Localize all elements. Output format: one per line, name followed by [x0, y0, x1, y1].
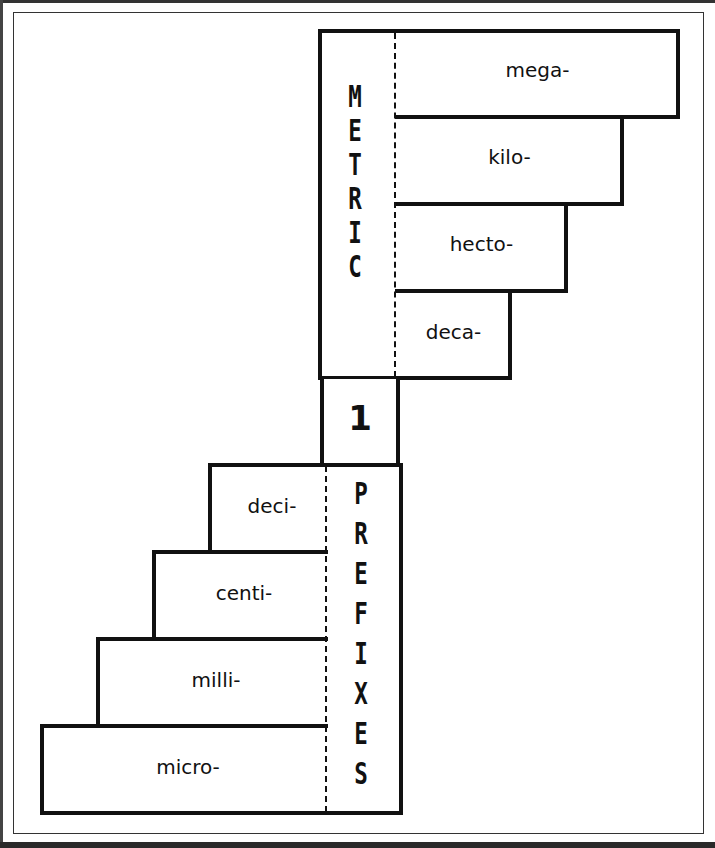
- prefixes-title: PREFIXES: [348, 474, 375, 794]
- label-deci: deci-: [208, 494, 326, 518]
- scan-edge-left: [0, 0, 3, 848]
- label-centi: centi-: [152, 581, 326, 605]
- label-micro: micro-: [40, 755, 326, 779]
- label-deca: deca-: [395, 320, 512, 344]
- scan-edge-bottom: [0, 842, 715, 848]
- metric-title: METRIC: [342, 80, 369, 284]
- fold-line-top: [394, 33, 396, 377]
- label-milli: milli-: [96, 668, 326, 692]
- label-hecto: hecto-: [395, 232, 568, 256]
- scan-edge-top: [0, 0, 715, 3]
- label-kilo: kilo-: [395, 145, 624, 169]
- fold-line-bottom: [325, 466, 327, 812]
- label-mega: mega-: [395, 58, 680, 82]
- base-unit-label: 1: [322, 398, 398, 438]
